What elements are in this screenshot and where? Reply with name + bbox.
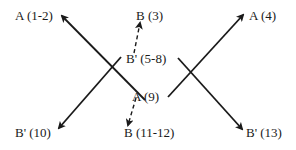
label-b-prime-10: B' (10) — [15, 126, 51, 139]
label-b-11-12: B (11-12) — [124, 126, 174, 139]
label-b-prime-13: B' (13) — [246, 126, 282, 139]
arrow-to-b-prime-13 — [178, 58, 242, 129]
label-b-prime-5-8: B' (5-8) — [126, 52, 166, 65]
dashed-arrow-to-b-3 — [134, 23, 140, 53]
label-a-9: A (9) — [132, 90, 159, 103]
label-a-1-2: A (1-2) — [15, 9, 53, 22]
arrow-to-a-4 — [168, 15, 243, 97]
label-b-3: B (3) — [136, 9, 163, 22]
arrow-to-b-prime-10 — [59, 57, 121, 128]
label-a-4: A (4) — [249, 9, 276, 22]
